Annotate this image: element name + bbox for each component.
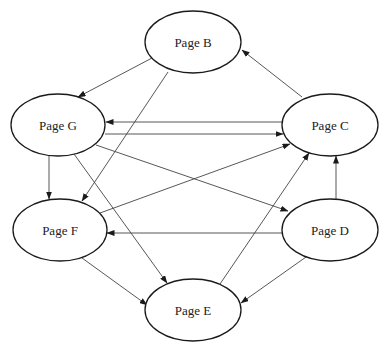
node-page-d: Page D <box>282 199 378 261</box>
node-label: Page C <box>311 118 348 133</box>
node-page-g: Page G <box>11 94 105 156</box>
node-page-f: Page F <box>13 199 107 261</box>
page-link-graph: Page BPage GPage CPage FPage DPage E <box>0 0 386 353</box>
node-label: Page F <box>42 223 78 238</box>
edge-f-to-c <box>100 144 290 213</box>
node-label: Page B <box>174 35 212 50</box>
edge-c-to-b <box>242 50 302 97</box>
node-page-e: Page E <box>145 279 241 341</box>
node-label: Page E <box>175 303 212 318</box>
edges-layer <box>49 50 336 305</box>
graph-svg: Page BPage GPage CPage FPage DPage E <box>0 0 386 353</box>
node-label: Page G <box>39 118 77 133</box>
edge-b-to-g <box>78 58 152 97</box>
nodes-layer: Page BPage GPage CPage FPage DPage E <box>11 11 378 341</box>
node-label: Page D <box>311 223 349 238</box>
edge-f-to-e <box>82 258 147 305</box>
edge-d-to-e <box>241 257 306 303</box>
node-page-c: Page C <box>282 94 378 156</box>
node-page-b: Page B <box>145 11 241 73</box>
